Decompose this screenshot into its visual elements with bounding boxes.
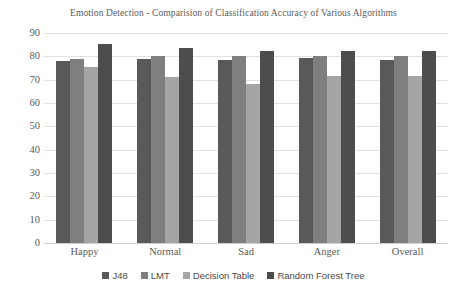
x-tick-label-sad: Sad [238, 246, 254, 257]
y-tick-label: 20 [4, 191, 40, 202]
y-tick-label: 90 [4, 28, 40, 39]
y-tick-label: 70 [4, 74, 40, 85]
bar-overall-j48[interactable] [380, 60, 394, 243]
y-tick-label: 80 [4, 51, 40, 62]
bar-normal-decision-table[interactable] [165, 77, 179, 243]
bar-group-anger [286, 33, 367, 243]
chart-container: Emotion Detection - Comparision of Class… [0, 0, 467, 296]
x-tick-label-normal: Normal [149, 246, 181, 257]
bar-sad-j48[interactable] [218, 60, 232, 243]
legend-swatch-icon [183, 272, 190, 279]
plot-area [44, 33, 448, 243]
bar-anger-lmt[interactable] [313, 56, 327, 243]
y-tick-label: 30 [4, 168, 40, 179]
bar-sad-lmt[interactable] [232, 56, 246, 243]
axis-baseline [44, 243, 448, 244]
legend-swatch-icon [102, 272, 109, 279]
legend-item-lmt[interactable]: LMT [141, 270, 170, 281]
bar-anger-decision-table[interactable] [327, 76, 341, 243]
bar-normal-j48[interactable] [137, 59, 151, 243]
legend-item-j48[interactable]: J48 [102, 270, 127, 281]
bar-overall-decision-table[interactable] [408, 76, 422, 243]
y-tick-label: 60 [4, 98, 40, 109]
bar-happy-decision-table[interactable] [84, 67, 98, 243]
legend-label: Random Forest Tree [277, 270, 364, 281]
x-tick-label-overall: Overall [392, 246, 424, 257]
bar-group-happy [44, 33, 125, 243]
bar-anger-random-forest-tree[interactable] [341, 51, 355, 244]
legend-label: LMT [151, 270, 170, 281]
bar-normal-random-forest-tree[interactable] [179, 48, 193, 243]
bar-happy-random-forest-tree[interactable] [98, 44, 112, 244]
bar-group-overall [367, 33, 448, 243]
bar-overall-random-forest-tree[interactable] [422, 51, 436, 244]
y-tick-label: 0 [4, 238, 40, 249]
y-tick-label: 10 [4, 214, 40, 225]
y-axis: 9080706050403020100 [0, 33, 40, 243]
bar-normal-lmt[interactable] [151, 56, 165, 243]
legend-label: J48 [112, 270, 127, 281]
bar-group-normal [125, 33, 206, 243]
bar-overall-lmt[interactable] [394, 56, 408, 243]
bar-happy-j48[interactable] [56, 61, 70, 243]
legend-item-decision-table[interactable]: Decision Table [183, 270, 255, 281]
bar-group-sad [206, 33, 287, 243]
y-tick-label: 50 [4, 121, 40, 132]
y-tick-label: 40 [4, 144, 40, 155]
bar-sad-decision-table[interactable] [246, 84, 260, 243]
x-tick-label-anger: Anger [314, 246, 340, 257]
bar-anger-j48[interactable] [299, 58, 313, 244]
legend-item-random-forest-tree[interactable]: Random Forest Tree [267, 270, 364, 281]
bar-happy-lmt[interactable] [70, 59, 84, 243]
chart-legend: J48LMTDecision TableRandom Forest Tree [0, 270, 467, 281]
chart-title: Emotion Detection - Comparision of Class… [0, 8, 467, 18]
legend-label: Decision Table [193, 270, 255, 281]
x-axis: HappyNormalSadAngerOverall [44, 246, 448, 264]
legend-swatch-icon [267, 272, 274, 279]
x-tick-label-happy: Happy [70, 246, 98, 257]
legend-swatch-icon [141, 272, 148, 279]
bar-sad-random-forest-tree[interactable] [260, 51, 274, 244]
